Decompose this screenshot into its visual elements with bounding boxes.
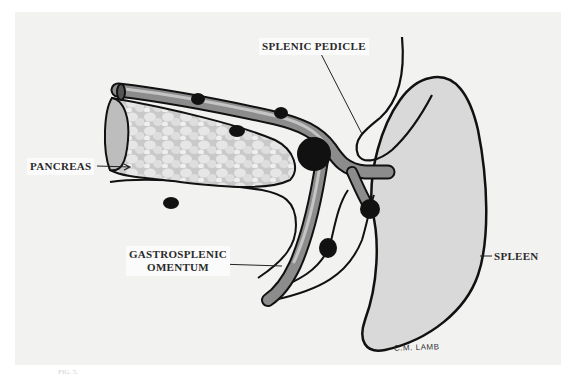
label-spleen: SPLEEN [494, 250, 539, 263]
label-splenic-pedicle: SPLENIC PEDICLE [259, 38, 369, 55]
lymph-node [191, 93, 205, 105]
pancreas-cut-face [105, 98, 128, 170]
label-omentum-line1: GASTROSPLENIC [129, 248, 227, 261]
label-omentum-line2: OMENTUM [129, 261, 227, 274]
anatomy-drawing [0, 0, 572, 377]
vessel-cut-end [117, 84, 125, 100]
artist-signature: C.M. LAMB [394, 342, 440, 353]
label-pancreas: PANCREAS [27, 158, 94, 175]
lymph-node [229, 125, 245, 137]
lymph-node [163, 197, 179, 209]
label-gastrosplenic-omentum: GASTROSPLENIC OMENTUM [126, 246, 230, 276]
splenic-pedicle-leader [320, 52, 362, 134]
lymph-node-large [297, 137, 331, 171]
lymph-node [360, 199, 380, 219]
lymph-node [319, 238, 337, 258]
lymph-node [274, 107, 288, 119]
caption-fragment: FIG. 5. [58, 368, 78, 376]
